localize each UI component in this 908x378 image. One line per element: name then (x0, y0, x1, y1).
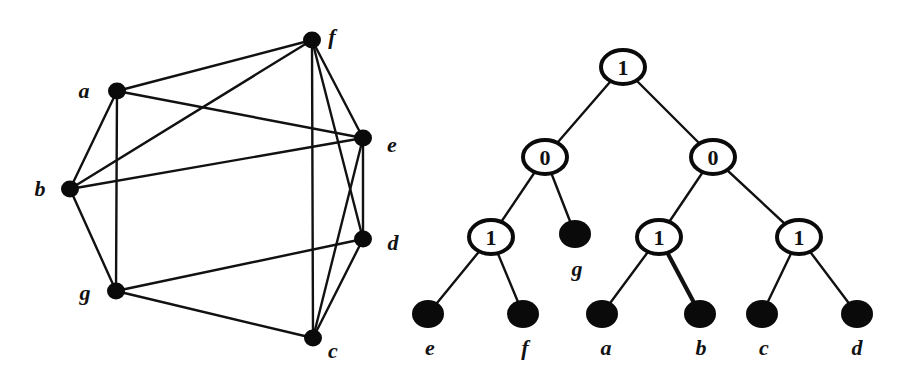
graph-vertex-b (61, 181, 79, 198)
graph-vertex-label: g (79, 280, 91, 305)
tree-node-value: 1 (618, 55, 629, 80)
tree-node-value: 1 (794, 225, 805, 250)
tree-leaf-label: f (521, 335, 531, 360)
graph-vertex-a (108, 83, 126, 100)
tree-leaf-g (559, 220, 591, 248)
tree-leaf-b (684, 300, 716, 328)
tree-leaf-a (586, 300, 618, 328)
graph-edge-f-e (312, 40, 363, 138)
graph-edge-a-g (116, 91, 117, 291)
graph-vertex-g (107, 283, 125, 300)
graph-edge-b-g (70, 189, 116, 291)
tree-leaf-label: d (852, 335, 864, 360)
graph-vertex-c (304, 330, 322, 347)
tree-nodes: 100111gefabcd (412, 50, 873, 360)
graph-edge-b-e (70, 138, 363, 189)
graph-vertex-label: a (79, 78, 90, 103)
graph-vertex-label: b (35, 176, 46, 201)
graph-vertex-e (354, 130, 372, 147)
tree-leaf-label: b (696, 335, 707, 360)
graph-edge-f-c (312, 40, 313, 338)
graph-vertex-f (303, 32, 321, 49)
graph-edge-g-c (116, 291, 313, 338)
tree-leaf-d (841, 300, 873, 328)
tree-leaf-label: a (601, 335, 612, 360)
graph-vertices: abfedgc (35, 24, 400, 363)
tree-leaf-f (507, 300, 539, 328)
diagram-canvas: abfedgc 100111gefabcd (0, 0, 908, 378)
tree-leaf-c (746, 300, 778, 328)
graph-vertex-d (354, 231, 372, 248)
tree-node-value: 1 (486, 225, 497, 250)
graph-vertex-label: f (328, 24, 338, 49)
tree-edges (428, 67, 857, 314)
tree-node-value: 1 (654, 225, 665, 250)
tree-node-value: 0 (540, 145, 551, 170)
graph-vertex-label: d (388, 230, 400, 255)
graph-vertex-label: e (387, 132, 397, 157)
graph-vertex-label: c (328, 338, 338, 363)
tree-leaf-label: g (571, 256, 583, 281)
tree-leaf-e (412, 300, 444, 328)
tree-leaf-label: c (759, 335, 769, 360)
graph-edge-d-c (313, 239, 363, 338)
tree-node-value: 0 (708, 145, 719, 170)
tree-leaf-label: e (425, 335, 435, 360)
graph-edge-a-f (117, 40, 312, 91)
